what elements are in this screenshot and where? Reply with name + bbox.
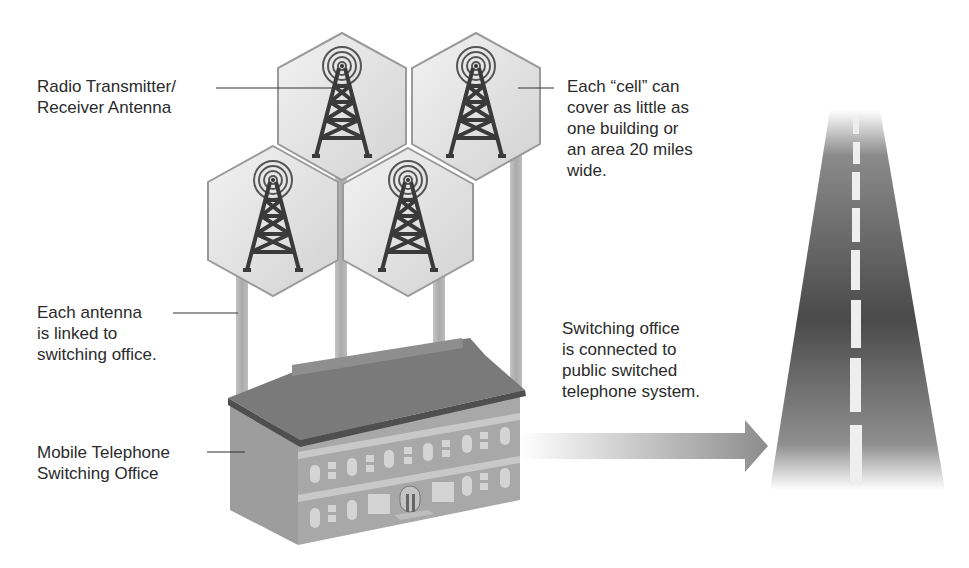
label-antenna: Radio Transmitter/ Receiver Antenna [37, 76, 176, 118]
label-switching-office: Mobile Telephone Switching Office [37, 442, 170, 484]
link-pole [510, 150, 522, 395]
cell-bottom-left [208, 146, 338, 296]
label-pstn-connection: Switching office is connected to public … [562, 318, 700, 402]
cell-top-left [278, 33, 406, 180]
switching-office-building [228, 338, 526, 545]
label-antenna-link: Each antenna is linked to switching offi… [37, 302, 157, 365]
road-icon [770, 110, 945, 490]
connection-arrow [520, 420, 768, 472]
cell-bottom-right [343, 148, 473, 296]
label-cell-coverage: Each “cell” can cover as little as one b… [567, 76, 693, 181]
